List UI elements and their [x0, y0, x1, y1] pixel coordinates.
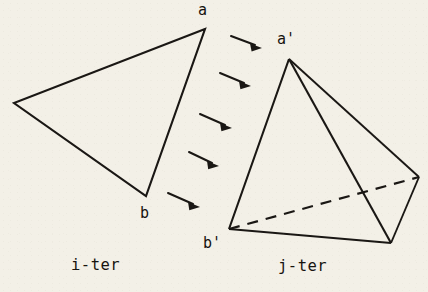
vertex-label-b: b: [140, 206, 149, 221]
tetra-edge-apex-to-back-right: [289, 59, 419, 177]
arrow-4: [189, 152, 219, 169]
mapping-arrows-group: [168, 36, 262, 210]
left-triangle-group: [14, 29, 205, 196]
arrow-1: [231, 36, 262, 52]
tetra-edge-bprime-to-front-right: [229, 229, 391, 243]
arrow-3: [200, 114, 232, 131]
right-tetrahedron-group: [229, 59, 419, 243]
caption-left: i-ter: [71, 258, 120, 274]
arrow-5: [168, 193, 200, 210]
tetra-edge-back-right-to-front-right: [391, 177, 419, 243]
figure-canvas: a b a' b' i-ter j-ter: [0, 0, 428, 292]
arrow-2: [220, 73, 251, 89]
caption-right: j-ter: [278, 259, 327, 275]
vertex-label-a-prime: a': [277, 32, 295, 47]
tetra-edge-apex-to-front-right: [289, 59, 391, 243]
left-triangle: [14, 29, 205, 196]
tetra-hidden-edge-bprime-to-back-right: [229, 177, 419, 229]
tetra-edge-apex-to-bprime: [229, 59, 289, 229]
vertex-label-b-prime: b': [203, 236, 221, 251]
vertex-label-a: a: [198, 3, 207, 18]
